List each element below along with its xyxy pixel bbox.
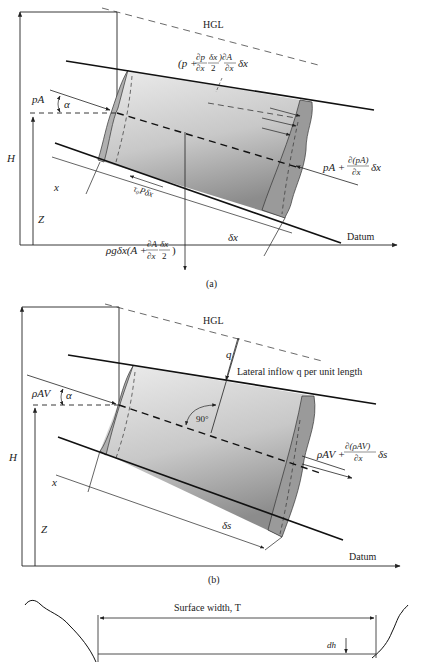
- pA-label: pA: [31, 93, 45, 105]
- Z-label-b: Z: [41, 523, 48, 535]
- datum-label-b: Datum: [349, 551, 376, 562]
- svg-text:): ): [172, 244, 176, 257]
- svg-text:2: 2: [211, 63, 216, 73]
- svg-text:∂A: ∂A: [147, 239, 157, 249]
- svg-text:α: α: [66, 389, 72, 401]
- angle-label: 90°: [196, 414, 209, 424]
- svg-text:∂(pA): ∂(pA): [348, 155, 368, 165]
- Z-label: Z: [38, 213, 45, 225]
- H-label: H: [6, 152, 16, 164]
- hgl-label: HGL: [203, 19, 224, 30]
- panel-c: Surface width, T dh: [25, 600, 408, 662]
- x-label: x: [53, 181, 59, 193]
- svg-text:∂x: ∂x: [225, 63, 233, 73]
- svg-text:δx: δx: [160, 239, 168, 249]
- svg-text:δs: δs: [378, 448, 387, 460]
- svg-text:∂x: ∂x: [147, 251, 155, 261]
- rhoAV-label: ρAV: [31, 387, 51, 399]
- svg-text:x: x: [51, 476, 57, 488]
- svg-text:pA +: pA +: [322, 161, 345, 173]
- alpha-label: α: [64, 98, 70, 110]
- hgl-label-b: HGL: [203, 315, 224, 326]
- svg-text:ρgδx(A +: ρgδx(A +: [105, 244, 147, 257]
- svg-text:∂x: ∂x: [352, 167, 360, 177]
- svg-text:ρAV +: ρAV +: [316, 448, 345, 460]
- svg-text:δx: δx: [238, 57, 248, 69]
- svg-text:)∂A: )∂A: [218, 52, 232, 62]
- side-force-open: (p +: [178, 57, 197, 70]
- panel-b: H Z Datum HGL ρAV α q Lateral inflow q p…: [8, 304, 400, 586]
- svg-text:δx: δx: [209, 52, 217, 62]
- svg-text:2: 2: [162, 251, 167, 261]
- datum-label: Datum: [347, 231, 374, 242]
- svg-text:∂(ρAV): ∂(ρAV): [345, 441, 370, 451]
- svg-text:∂p: ∂p: [196, 52, 205, 62]
- lateral-inflow-label: Lateral inflow q per unit length: [237, 366, 362, 377]
- pA-arrow: [50, 90, 110, 110]
- q-label: q: [226, 348, 232, 360]
- dx-label: δx: [228, 231, 238, 243]
- svg-text:δx: δx: [371, 161, 381, 173]
- ds-label: δs: [222, 519, 231, 531]
- H-label-b: H: [8, 451, 18, 463]
- dh-label: dh: [327, 640, 337, 650]
- svg-text:∂x: ∂x: [354, 453, 362, 463]
- svg-text:∂x: ∂x: [196, 63, 204, 73]
- panel-a: H Z Datum HGL pA α (p + ∂p ∂x δx: [6, 8, 397, 290]
- hydraulics-control-volume-figure: H Z Datum HGL pA α (p + ∂p ∂x δx: [0, 0, 427, 662]
- surface-width-label: Surface width, T: [174, 602, 241, 613]
- caption-a: (a): [206, 278, 217, 290]
- caption-b: (b): [208, 574, 220, 586]
